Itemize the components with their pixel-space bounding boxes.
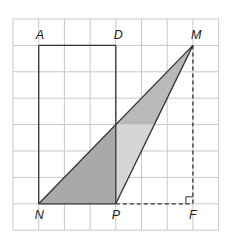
- geometry-figure: A D M N P F: [0, 0, 229, 242]
- right-angle-marker: [186, 197, 193, 204]
- right-angle-icon: [186, 197, 193, 204]
- label-F: F: [189, 208, 198, 222]
- label-D: D: [114, 28, 123, 42]
- label-M: M: [191, 28, 202, 42]
- label-A: A: [35, 28, 44, 42]
- label-P: P: [112, 208, 121, 222]
- label-N: N: [35, 208, 45, 222]
